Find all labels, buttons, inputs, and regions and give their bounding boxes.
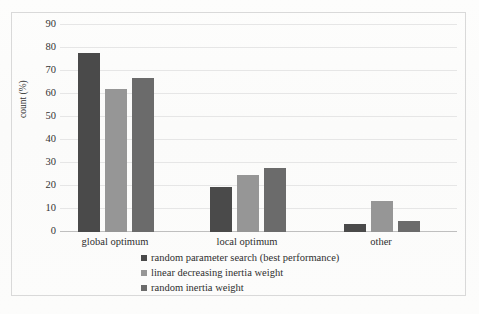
x-tick-global-optimum: global optimum bbox=[82, 236, 149, 247]
x-tick-local-optimum: local optimum bbox=[217, 236, 278, 247]
legend-item-series3: random inertia weight bbox=[141, 282, 339, 294]
legend-label-series1: random parameter search (best performanc… bbox=[151, 252, 339, 264]
bar-other-series3 bbox=[398, 221, 420, 233]
legend-label-series3: random inertia weight bbox=[151, 282, 244, 294]
legend-label-series2: linear decreasing inertia weight bbox=[151, 267, 283, 279]
x-tick-other: other bbox=[370, 236, 392, 247]
legend-item-series1: random parameter search (best performanc… bbox=[141, 252, 339, 264]
chart-legend: random parameter search (best performanc… bbox=[141, 252, 339, 294]
legend-swatch-icon-series3 bbox=[141, 285, 147, 291]
plot-area bbox=[60, 24, 457, 232]
legend-swatch-icon-series1 bbox=[141, 255, 147, 261]
bar-global-optimum-series3 bbox=[132, 78, 154, 232]
y-axis-title: count (%) bbox=[18, 80, 28, 118]
bar-other-series2 bbox=[371, 201, 393, 232]
bar-local-optimum-series1 bbox=[210, 187, 232, 232]
bar-other-series1 bbox=[344, 224, 366, 232]
legend-swatch-icon-series2 bbox=[141, 270, 147, 276]
bar-global-optimum-series1 bbox=[78, 53, 100, 232]
bar-group-container bbox=[60, 24, 457, 232]
bar-local-optimum-series3 bbox=[264, 168, 286, 232]
bar-global-optimum-series2 bbox=[105, 89, 127, 232]
legend-item-series2: linear decreasing inertia weight bbox=[141, 267, 339, 279]
bar-local-optimum-series2 bbox=[237, 175, 259, 233]
